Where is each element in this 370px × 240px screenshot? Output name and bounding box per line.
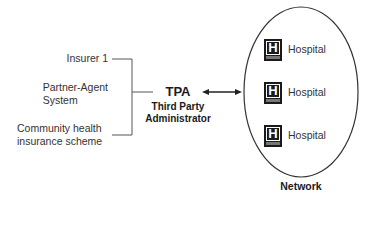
source-label: insurance scheme: [17, 135, 102, 148]
source-label: Community health: [17, 122, 102, 135]
tpa-subtitle-line2: Administrator: [138, 113, 218, 125]
hospital-label: Hospital: [288, 43, 326, 55]
source-insurer: Insurer 1: [67, 52, 108, 65]
source-partner-agent: Partner-Agent System: [43, 81, 108, 107]
tpa-subtitle-line1: Third Party: [138, 101, 218, 113]
tpa-title: TPA: [153, 84, 203, 99]
source-community-scheme: Community health insurance scheme: [17, 122, 102, 148]
source-label: System: [43, 94, 108, 107]
hospital-label: Hospital: [288, 129, 326, 141]
hospital-h-icon: H: [264, 82, 282, 104]
network-label: Network: [261, 180, 341, 192]
tpa-subtitle: Third Party Administrator: [138, 101, 218, 125]
source-label: Partner-Agent: [43, 81, 108, 94]
hospital-h-icon: H: [264, 39, 282, 61]
arrow-right-head-icon: [235, 89, 242, 95]
arrow-left-head-icon: [202, 89, 209, 95]
source-label: Insurer 1: [67, 52, 108, 65]
hospital-label: Hospital: [288, 86, 326, 98]
hospital-h-icon: H: [264, 125, 282, 147]
